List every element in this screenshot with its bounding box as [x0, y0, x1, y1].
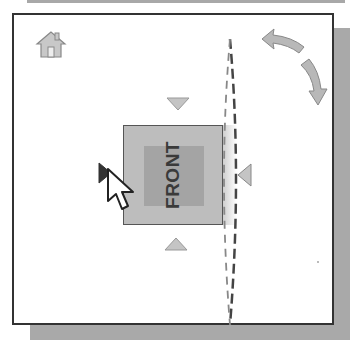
triangle-left-icon[interactable]	[236, 163, 252, 187]
home-icon[interactable]	[34, 29, 68, 59]
top-strip	[27, 0, 345, 3]
viewcube-front-face[interactable]: FRONT	[123, 125, 223, 225]
mouse-pointer-icon	[106, 167, 136, 215]
triangle-up-icon[interactable]	[164, 237, 188, 251]
viewcube-panel: FRONT	[12, 13, 334, 325]
panel-shadow-bottom	[30, 325, 350, 340]
front-face-label: FRONT	[162, 141, 184, 209]
rotate-arrow-right-icon[interactable]	[299, 55, 339, 115]
triangle-down-icon[interactable]	[166, 97, 190, 111]
speck	[317, 261, 319, 263]
